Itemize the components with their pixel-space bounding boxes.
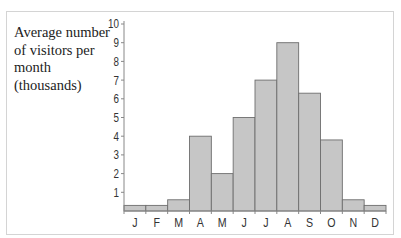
bar-1	[124, 205, 146, 211]
title-line-3: month	[14, 59, 52, 75]
title-line-1: Average number	[14, 24, 110, 40]
bar-4	[190, 136, 212, 211]
y-tick-label: 8	[114, 55, 119, 68]
x-tick-label: N	[349, 215, 357, 230]
y-tick-label: 4	[114, 130, 119, 143]
y-tick-label: 3	[114, 148, 119, 161]
x-tick-label: F	[153, 215, 160, 230]
bar-5	[211, 174, 233, 211]
title-line-4: (thousands)	[14, 77, 82, 94]
y-tick-label: 9	[114, 36, 119, 49]
bar-chart: Average number of visitors per month (th…	[0, 0, 401, 238]
y-tick-label: 2	[114, 167, 119, 180]
x-tick-label: J	[263, 215, 268, 230]
y-tick-label: 5	[114, 111, 119, 124]
x-tick-label: D	[371, 215, 379, 230]
x-tick-label: A	[197, 215, 204, 230]
bar-6	[233, 118, 255, 212]
title-line-2: of visitors per	[14, 42, 95, 58]
x-tick-label: M	[218, 215, 227, 230]
bar-7	[255, 80, 277, 211]
y-tick-label: 7	[114, 74, 119, 87]
bar-11	[342, 200, 364, 211]
bar-12	[364, 205, 386, 211]
bar-2	[146, 205, 168, 211]
x-tick-label: J	[241, 215, 246, 230]
x-tick-label: M	[174, 215, 183, 230]
x-tick-label: A	[284, 215, 291, 230]
bar-9	[299, 93, 321, 211]
bar-10	[321, 140, 343, 211]
x-tick-label: S	[306, 215, 313, 230]
bar-3	[168, 200, 190, 211]
y-tick-label: 10	[108, 18, 119, 31]
x-tick-label: J	[132, 215, 137, 230]
y-tick-label: 1	[114, 186, 119, 199]
x-tick-label: O	[327, 215, 335, 230]
y-tick-label: 6	[114, 92, 119, 105]
bar-8	[277, 43, 299, 211]
